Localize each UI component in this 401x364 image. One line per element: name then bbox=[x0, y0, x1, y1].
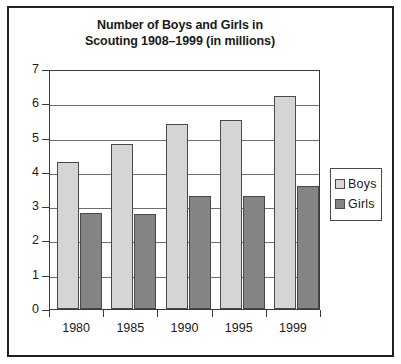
x-axis-tick-label: 1980 bbox=[62, 321, 90, 335]
bar-boys-1980 bbox=[57, 162, 79, 309]
chart-figure: Number of Boys and Girls in Scouting 190… bbox=[0, 0, 401, 364]
x-axis-tick-mark bbox=[266, 310, 267, 317]
legend-swatch-icon bbox=[335, 199, 345, 209]
bar-girls-1999 bbox=[297, 186, 319, 309]
x-axis-tick-label: 1995 bbox=[225, 321, 253, 335]
x-axis-tick-label: 1985 bbox=[116, 321, 144, 335]
y-axis-tick-mark bbox=[42, 241, 49, 242]
y-axis-tick-mark bbox=[42, 310, 49, 311]
y-axis-tick-mark bbox=[42, 173, 49, 174]
bar-boys-1999 bbox=[274, 96, 296, 309]
y-axis-tick-label: 0 bbox=[17, 302, 39, 316]
y-axis-tick-label: 6 bbox=[17, 96, 39, 110]
x-axis-tick-mark bbox=[320, 310, 321, 317]
chart-title: Number of Boys and Girls in Scouting 190… bbox=[30, 17, 330, 49]
y-axis-tick-label: 7 bbox=[17, 62, 39, 76]
bar-boys-1995 bbox=[220, 120, 242, 309]
chart-title-line-2: Scouting 1908–1999 (in millions) bbox=[30, 33, 330, 49]
y-axis-tick-label: 4 bbox=[17, 165, 39, 179]
y-axis-tick-label: 1 bbox=[17, 268, 39, 282]
bar-boys-1990 bbox=[166, 124, 188, 309]
bar-girls-1995 bbox=[243, 196, 265, 309]
legend-swatch-icon bbox=[335, 179, 345, 189]
x-axis-tick-label: 1990 bbox=[171, 321, 199, 335]
chart-title-line-1: Number of Boys and Girls in bbox=[30, 17, 330, 33]
x-axis-tick-mark bbox=[157, 310, 158, 317]
bar-girls-1990 bbox=[189, 196, 211, 309]
y-axis-tick-mark bbox=[42, 104, 49, 105]
x-axis-tick-mark bbox=[49, 310, 50, 317]
bar-girls-1980 bbox=[80, 213, 102, 309]
x-axis-tick-mark bbox=[212, 310, 213, 317]
y-axis-tick-label: 5 bbox=[17, 131, 39, 145]
legend-item-girls: Girls bbox=[335, 194, 381, 214]
y-axis-tick-mark bbox=[42, 139, 49, 140]
y-axis-tick-mark bbox=[42, 70, 49, 71]
chart-legend: BoysGirls bbox=[330, 168, 382, 221]
y-axis-tick-mark bbox=[42, 207, 49, 208]
legend-item-label: Boys bbox=[348, 177, 377, 191]
x-axis-tick-label: 1999 bbox=[279, 321, 307, 335]
plot-area bbox=[49, 70, 320, 310]
y-axis-tick-label: 2 bbox=[17, 233, 39, 247]
legend-item-label: Girls bbox=[348, 197, 375, 211]
y-axis-tick-mark bbox=[42, 276, 49, 277]
legend-item-boys: Boys bbox=[335, 174, 381, 194]
y-axis-tick-label: 3 bbox=[17, 199, 39, 213]
bar-boys-1985 bbox=[111, 144, 133, 309]
x-axis-tick-mark bbox=[103, 310, 104, 317]
bar-girls-1985 bbox=[134, 214, 156, 309]
